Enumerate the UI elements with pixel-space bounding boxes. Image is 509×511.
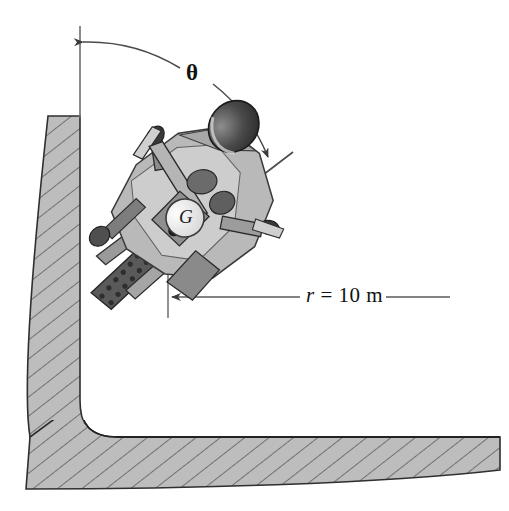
horizontal-ground: [26, 400, 500, 489]
radius-equals-sign: =: [320, 283, 332, 307]
angle-label-theta: θ: [186, 60, 198, 86]
vertical-wall: [27, 116, 110, 437]
diagram-svg: [0, 0, 509, 511]
center-of-mass-label: G: [179, 206, 193, 228]
radius-value: 10 m: [339, 283, 384, 307]
radius-symbol: r: [306, 283, 315, 307]
radius-label: r = 10 m: [306, 283, 383, 308]
figure-canvas: θ r = 10 m G: [0, 0, 509, 511]
